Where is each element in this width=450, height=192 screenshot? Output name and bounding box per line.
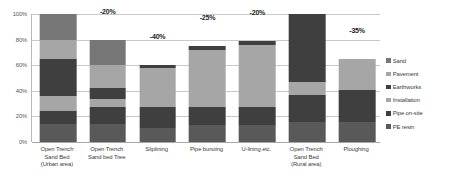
bar-segment-pe-resin (139, 128, 176, 142)
x-axis-category-label: U-lining etc. (231, 146, 281, 154)
bar-slot[interactable]: -20% (83, 14, 133, 142)
bar-segment-installation (339, 59, 376, 90)
x-axis-label-line: Sand Bed (281, 154, 331, 162)
stacked-bar-chart: 100%80%60%40%20%0% -20%-40%-25%-20%-35% … (0, 0, 450, 192)
bar-segment-pipe-on-site (139, 107, 176, 127)
bar-slot[interactable]: -25% (183, 14, 233, 142)
bar-slot[interactable]: -35% (332, 14, 382, 142)
bar-segment-pipe-on-site (89, 107, 126, 124)
stacked-bar[interactable] (139, 65, 176, 142)
x-axis-label-line: (Urban area) (32, 161, 82, 169)
y-axis-tick-label: 0% (0, 139, 27, 145)
bar-segment-pipe-on-site (239, 107, 276, 125)
bar-slot[interactable]: -40% (133, 14, 183, 142)
x-axis-label-line: Sand Bed (32, 154, 82, 162)
bar-data-label: -20% (100, 8, 116, 15)
x-axis: Open TrenchSand Bed(Urban area)Open Tren… (32, 146, 380, 192)
stacked-bar[interactable] (339, 59, 376, 142)
legend-item-installation[interactable]: Installation (386, 94, 450, 107)
legend-label: Pipe on-site (393, 110, 423, 116)
x-axis-category-label: Ploughing (331, 146, 381, 154)
bar-slot[interactable] (33, 14, 83, 142)
y-axis-tick-label: 40% (0, 88, 27, 94)
x-axis-category-label: Open TrenchSand bed Tree (82, 146, 132, 161)
stacked-bar[interactable] (289, 14, 326, 142)
legend-swatch-icon (386, 58, 391, 63)
bar-segment-installation (189, 50, 226, 108)
bar-segment-pavement (89, 65, 126, 88)
bar-segment-installation (139, 68, 176, 108)
legend-swatch-icon (386, 111, 391, 116)
bar-data-label: -40% (150, 33, 166, 40)
bar-segment-earthworks (89, 88, 126, 98)
y-axis-tick-label: 100% (0, 11, 27, 17)
x-axis-category-label: Pipe bursting (182, 146, 232, 154)
bar-segment-pe-resin (89, 124, 126, 142)
x-axis-label-line: Open Trench (32, 146, 82, 154)
bar-segment-pe-resin (239, 125, 276, 142)
bar-segment-pipe-on-site (289, 95, 326, 122)
x-axis-label-line: (Rural area) (281, 161, 331, 169)
legend-label: Installation (393, 97, 420, 103)
y-axis-tick-label: 20% (0, 113, 27, 119)
x-axis-label-line: U-lining etc. (231, 146, 281, 154)
bar-group: -20%-40%-25%-20%-35% (33, 14, 380, 142)
bar-slot[interactable] (282, 14, 332, 142)
legend-item-sand[interactable]: Sand (386, 54, 450, 67)
bar-segment-pipe-on-site (40, 111, 77, 124)
bar-segment-installation (239, 45, 276, 108)
bar-segment-pavement (40, 40, 77, 59)
bar-segment-pe-resin (40, 124, 77, 142)
x-axis-label-line: Sliplining (132, 146, 182, 154)
bar-slot[interactable]: -20% (232, 14, 282, 142)
bar-segment-earthworks (40, 59, 77, 96)
bar-segment-pe-resin (289, 122, 326, 142)
legend-label: PE resin (393, 124, 414, 130)
legend-label: Earthworks (393, 84, 421, 90)
stacked-bar[interactable] (239, 41, 276, 142)
x-axis-label-line: Ploughing (331, 146, 381, 154)
plot-area: -20%-40%-25%-20%-35% (31, 14, 380, 142)
legend-item-earthworks[interactable]: Earthworks (386, 80, 450, 93)
bar-data-label: -25% (200, 14, 216, 21)
stacked-bar[interactable] (189, 46, 226, 142)
legend-swatch-icon (386, 72, 391, 77)
legend-item-pipe-on-site[interactable]: Pipe on-site (386, 107, 450, 120)
stacked-bar[interactable] (40, 14, 77, 142)
bar-data-label: -20% (250, 9, 266, 16)
legend-item-pavement[interactable]: Pavement (386, 67, 450, 80)
bar-segment-pe-resin (189, 125, 226, 142)
bar-segment-sand (40, 14, 77, 40)
y-axis-tick-label: 60% (0, 62, 27, 68)
legend-item-pe-resin[interactable]: PE resin (386, 120, 450, 133)
y-axis-tick-label: 80% (0, 37, 27, 43)
legend-swatch-icon (386, 85, 391, 90)
bar-segment-pipe-on-site (339, 90, 376, 122)
bar-segment-pe-resin (339, 122, 376, 142)
x-axis-label-line: Pipe bursting (182, 146, 232, 154)
legend-swatch-icon (386, 98, 391, 103)
bar-segment-installation (40, 96, 77, 111)
bar-segment-installation (289, 82, 326, 95)
bar-segment-installation (89, 99, 126, 108)
chart-legend: SandPavementEarthworksInstallationPipe o… (386, 54, 450, 133)
x-axis-category-label: Open TrenchSand Bed(Urban area) (32, 146, 82, 169)
x-axis-label-line: Open Trench (281, 146, 331, 154)
x-axis-label-line: Sand bed Tree (82, 154, 132, 162)
x-axis-category-label: Open TrenchSand Bed(Rural area) (281, 146, 331, 169)
bar-segment-pipe-on-site (189, 107, 226, 125)
legend-label: Pavement (393, 71, 419, 77)
y-axis: 100%80%60%40%20%0% (0, 14, 29, 142)
x-axis-label-line: Open Trench (82, 146, 132, 154)
x-axis-category-label: Sliplining (132, 146, 182, 154)
stacked-bar[interactable] (89, 40, 126, 142)
gridline (32, 142, 380, 143)
bar-segment-sand (89, 40, 126, 66)
legend-swatch-icon (386, 124, 391, 129)
legend-label: Sand (393, 58, 406, 64)
bar-data-label: -35% (349, 27, 365, 34)
bar-segment-earthworks (289, 14, 326, 82)
